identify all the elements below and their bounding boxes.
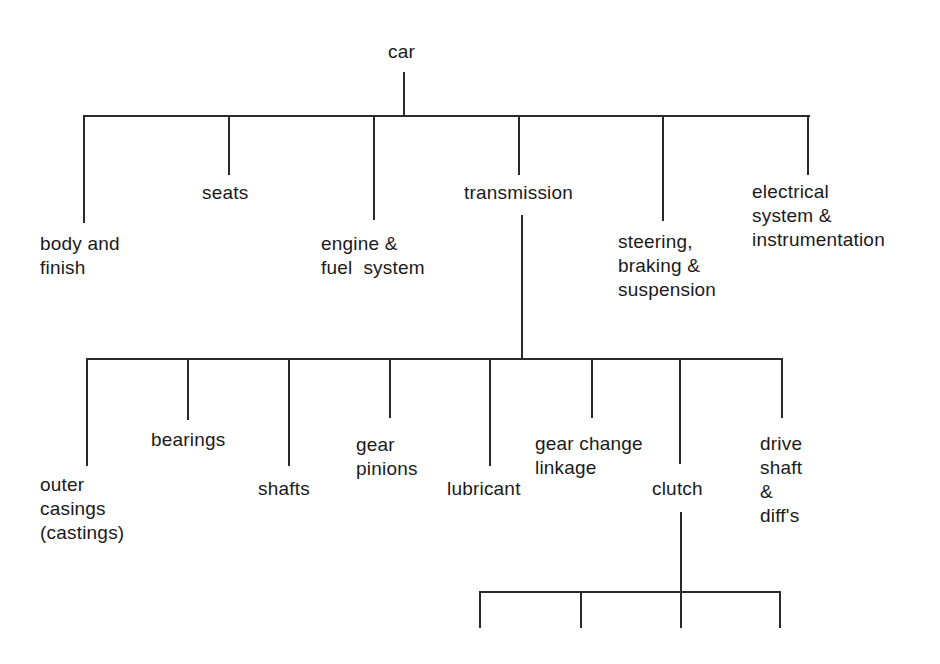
connector-transmission-down [521,215,523,359]
connector-shafts [288,358,290,466]
node-gear-change-linkage: gear change linkage [535,432,643,480]
node-steering-braking-suspension: steering, braking & suspension [618,230,716,302]
connector-clutch-child-3 [680,591,682,628]
connector-outer-casings [86,358,88,466]
connector-clutch-down [680,512,682,592]
connector-seats [228,115,230,175]
connector-clutch [679,358,681,464]
connector-body [83,115,85,223]
node-gear-pinions: gear pinions [356,433,418,481]
connector-level3-bar [479,591,781,593]
node-shafts: shafts [258,477,310,501]
node-drive-shaft-diffs: drive shaft & diff's [760,432,802,528]
node-engine-fuel-system: engine & fuel system [321,232,425,280]
node-body-and-finish: body and finish [40,232,120,280]
node-bearings: bearings [151,428,225,452]
connector-clutch-child-2 [580,591,582,628]
node-outer-casings: outer casings (castings) [40,473,124,545]
node-electrical-system: electrical system & instrumentation [752,180,885,252]
node-car: car [388,40,415,64]
node-seats: seats [202,181,248,205]
connector-gear-change [591,358,593,418]
connector-gear-pinions [389,358,391,418]
connector-bearings [187,358,189,420]
connector-electrical [807,115,809,175]
connector-root [403,72,405,115]
connector-steering [662,115,664,221]
node-lubricant: lubricant [447,477,521,501]
node-clutch: clutch [652,477,703,501]
connector-level1-bar [83,115,810,117]
connector-clutch-child-4 [779,591,781,628]
connector-clutch-child-1 [479,591,481,628]
connector-transmission [518,115,520,175]
node-transmission: transmission [464,181,573,205]
connector-drive-shaft [781,358,783,418]
connector-engine [373,115,375,220]
connector-lubricant [489,358,491,466]
